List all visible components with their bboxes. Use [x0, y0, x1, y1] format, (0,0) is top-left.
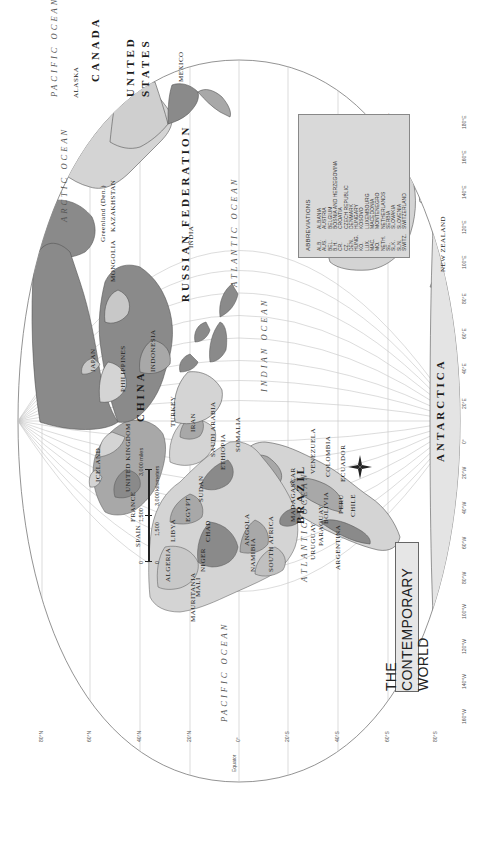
country-label: VENEZUELA — [310, 428, 317, 474]
latitude-tick: 40°S — [335, 731, 340, 742]
ocean-label: PACIFIC OCEAN — [220, 622, 229, 722]
country-label: ALASKA — [73, 67, 80, 98]
latitude-tick: 20°N — [187, 731, 192, 742]
country-label: MONGOLIA — [110, 240, 117, 282]
longitude-tick: 160°W — [462, 709, 467, 724]
country-label: PARAGUAY — [318, 504, 325, 546]
country-label: MEXICO — [178, 51, 185, 82]
abbreviation-row: SWITZ.SWITZERLAND — [402, 193, 407, 251]
scale-tick — [145, 469, 152, 470]
longitude-tick: 120°E — [462, 220, 467, 234]
latitude-tick: 0° — [236, 737, 241, 742]
latitude-tick: 40°N — [137, 731, 142, 742]
country-label: NEW ZEALAND — [440, 216, 447, 272]
longitude-tick: 40°E — [462, 363, 467, 374]
scale-tick — [145, 561, 152, 562]
country-label: NAMIBIA — [250, 538, 257, 572]
country-label: SAUDI ARABIA — [210, 401, 217, 457]
longitude-tick: 80°W — [462, 572, 467, 584]
abbreviation-row: B.H.BOSNIA AND HERZEGOVINA — [333, 161, 338, 251]
country-label: ECUADOR — [340, 445, 347, 482]
country-label: STATES — [140, 38, 151, 97]
latitude-tick: 80°S — [433, 731, 438, 742]
scale-tick — [145, 515, 152, 516]
country-label: ALGERIA — [165, 548, 172, 582]
country-label: UNITED — [125, 36, 136, 97]
country-label: SOUTH AFRICA — [268, 516, 275, 572]
country-label: CHINA — [135, 370, 146, 422]
country-label: INDONESIA — [150, 329, 157, 372]
longitude-tick: 120°W — [462, 639, 467, 654]
equator-label: Equator — [232, 754, 237, 772]
ocean-label: ATLANTIC OCEAN — [300, 472, 309, 582]
map-stage: RUSSIAN FEDERATIONCHINAMONGOLIAKAZAKHSTA… — [0, 0, 478, 842]
country-label: URUGUAY — [310, 522, 317, 560]
abbreviations-legend: ABBREVIATIONS ALB.ALBANIAAUS.AUSTRIABEL.… — [298, 114, 410, 258]
country-label: KAZAKHSTAN — [110, 180, 117, 232]
scale-km-0: 0 — [154, 561, 160, 564]
ocean-label: INDIAN OCEAN — [260, 298, 269, 392]
longitude-tick: 20°E — [462, 398, 467, 409]
country-label: INDIA — [188, 226, 195, 248]
country-label: CHAD — [205, 520, 212, 542]
latitude-tick: 60°N — [87, 731, 92, 742]
longitude-tick: 140°E — [462, 185, 467, 199]
country-label: PHILIPPINES — [120, 345, 127, 392]
ocean-label: PACIFIC OCEAN — [50, 0, 59, 97]
country-label: Greenland (Den.) — [100, 185, 107, 242]
country-label: COLOMBIA — [325, 436, 332, 477]
scale-line — [148, 470, 150, 562]
latitude-tick: 20°S — [285, 731, 290, 742]
longitude-tick: 20°W — [462, 467, 467, 479]
country-label: LIBYA — [170, 519, 177, 542]
country-label: CANADA — [90, 16, 101, 82]
country-label: SPAIN — [135, 525, 142, 547]
longitude-tick: 60°W — [462, 537, 467, 549]
scale-km-1500: 1,500 — [154, 522, 160, 536]
scale-miles-1500: 1,500 — [138, 508, 144, 522]
country-label: ARGENTINA — [335, 525, 342, 570]
longitude-tick: 160°E — [462, 150, 467, 164]
country-label: IRAN — [190, 413, 197, 432]
country-label: TURKEY — [170, 396, 177, 427]
country-label: ANTARCTICA — [435, 358, 446, 462]
ocean-label: ARCTIC OCEAN — [60, 127, 69, 222]
country-label: ETHIOPIA — [220, 434, 227, 470]
longitude-tick: 0° — [462, 439, 467, 444]
longitude-tick: 100°E — [462, 255, 467, 269]
map-title: THE CONTEMPORARY WORLD — [395, 542, 419, 692]
ocean-label: ATLANTIC OCEAN — [230, 177, 239, 287]
country-label: PERU — [338, 494, 345, 514]
scale-miles-0: 0 — [138, 561, 144, 564]
longitude-tick: 100°W — [462, 604, 467, 619]
longitude-tick: 40°W — [462, 502, 467, 514]
abbreviation-name: SWITZERLAND — [401, 193, 407, 229]
country-label: SUDAN — [198, 475, 205, 502]
country-label: FRANCE — [130, 491, 137, 522]
world-map: RUSSIAN FEDERATIONCHINAMONGOLIAKAZAKHSTA… — [0, 0, 478, 842]
country-label: RUSSIAN FEDERATION — [180, 124, 191, 302]
country-label: MADAGASCAR — [290, 467, 297, 522]
country-label: MAURITANIA — [190, 572, 197, 622]
abbreviation-code: SWITZ. — [402, 229, 407, 251]
country-label: SOMALIA — [235, 417, 242, 452]
country-label: JAPAN — [90, 348, 97, 372]
country-label: ICELAND — [95, 448, 102, 482]
country-label: CHILE — [350, 494, 357, 517]
scale-miles-3000: 3,000 miles — [138, 448, 144, 476]
scale-km-3000: 3,000 kilometers — [154, 466, 160, 506]
country-label: EGYPT — [185, 497, 192, 522]
longitude-tick: 180°E — [462, 115, 467, 129]
longitude-tick: 80°E — [462, 293, 467, 304]
country-label: UNITED KINGDOM — [125, 423, 132, 492]
latitude-tick: 60°S — [385, 731, 390, 742]
abbreviations-title: ABBREVIATIONS — [305, 199, 311, 251]
country-label: NIGER — [200, 548, 207, 572]
longitude-tick: 60°E — [462, 328, 467, 339]
longitude-tick: 140°W — [462, 674, 467, 689]
latitude-tick: 80°N — [39, 731, 44, 742]
